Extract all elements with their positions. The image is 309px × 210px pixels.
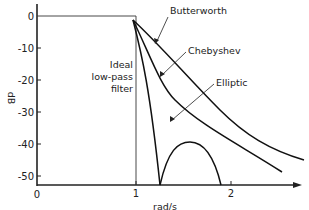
chebyshev-arrow-icon [160, 71, 165, 77]
y-axis-label: dB [6, 92, 17, 105]
ideal-label-line2: low-pass [92, 71, 133, 82]
ideal-lowpass-curve [37, 16, 136, 185]
elliptic-curve [133, 20, 160, 185]
filter-response-chart: 0 -10 -20 -30 -40 -50 dB 0 1 2 rad/s But… [0, 0, 309, 210]
elliptic-stopband-lobe [160, 142, 221, 185]
y-tick-minus40: -40 [18, 139, 34, 150]
elliptic-label: Elliptic [216, 77, 248, 88]
y-tick-minus20: -20 [18, 75, 34, 86]
y-tick-0: 0 [28, 11, 34, 22]
ideal-label-line3: filter [111, 83, 133, 94]
x-tick-0: 0 [34, 189, 40, 200]
chart-svg: 0 -10 -20 -30 -40 -50 dB 0 1 2 rad/s But… [0, 0, 309, 210]
butterworth-label: Butterworth [170, 5, 227, 16]
ideal-label-line1: Ideal [110, 59, 133, 70]
y-tick-minus30: -30 [18, 107, 34, 118]
x-tick-1: 1 [133, 188, 139, 199]
y-tick-minus50: -50 [18, 171, 34, 182]
y-tick-minus10: -10 [18, 43, 34, 54]
chebyshev-label: Chebyshev [188, 45, 241, 56]
x-axis-arrow-icon [293, 182, 302, 188]
x-tick-2: 2 [228, 188, 234, 199]
elliptic-arrow-icon [170, 116, 175, 122]
x-axis-label: rad/s [153, 201, 177, 210]
butterworth-leader [157, 17, 168, 41]
butterworth-curve [133, 20, 304, 160]
